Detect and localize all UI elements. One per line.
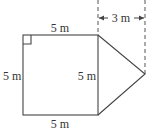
square-right-label: 5 m: [78, 69, 97, 83]
square-left-label: 5 m: [3, 69, 22, 83]
triangle-height-label: 3 m: [112, 11, 131, 25]
square-bottom-label: 5 m: [51, 117, 70, 131]
square-top-label: 5 m: [51, 21, 70, 35]
composite-shape-diagram: 3 m 5 m 5 m 5 m 5 m: [0, 0, 152, 135]
triangle-shape: [98, 35, 145, 115]
right-angle-marker: [23, 35, 31, 44]
